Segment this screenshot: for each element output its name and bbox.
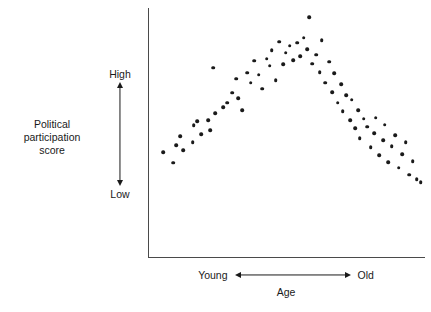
- scatter-point: [348, 118, 352, 122]
- y-axis-title: Political participation score: [6, 118, 98, 157]
- scatter-point: [268, 64, 272, 68]
- scatter-point: [411, 160, 415, 164]
- scatter-point: [284, 51, 288, 55]
- x-axis-old-label: Old: [358, 269, 374, 281]
- scatter-point: [213, 111, 217, 115]
- scatter-point: [383, 123, 387, 127]
- scatter-point: [181, 148, 185, 152]
- scatter-point: [274, 78, 278, 82]
- scatter-point: [378, 153, 382, 157]
- x-axis-young-label: Young: [198, 269, 227, 281]
- scatter-point: [339, 82, 343, 86]
- x-axis-title: Age: [155, 286, 417, 298]
- scatter-point: [192, 123, 196, 127]
- scatter-point: [393, 133, 397, 137]
- scatter-point: [288, 44, 292, 48]
- scatter-point: [200, 132, 204, 136]
- scatter-plot-area: [149, 8, 425, 257]
- scatter-point: [404, 141, 408, 145]
- scatter-point: [298, 55, 302, 59]
- scatter-point: [366, 125, 370, 129]
- scatter-point: [397, 166, 401, 170]
- scatter-point: [390, 144, 394, 148]
- scatter-point: [178, 134, 182, 138]
- y-axis-title-line1: Political participation: [6, 118, 98, 144]
- y-axis-title-line2: score: [6, 144, 98, 157]
- scatter-point: [260, 87, 264, 91]
- scatter-point: [318, 70, 322, 74]
- arrow-down-head-icon: [117, 180, 123, 186]
- y-axis-low-label: Low: [96, 188, 144, 200]
- scatter-point: [230, 91, 234, 95]
- scatter-point: [208, 128, 212, 132]
- y-axis-high-label: High: [96, 68, 144, 80]
- scatter-point: [171, 161, 175, 165]
- y-axis-double-arrow-icon: [96, 82, 144, 186]
- scatter-point: [249, 81, 253, 85]
- scatter-point: [191, 140, 195, 144]
- scatter-point: [419, 181, 423, 185]
- scatter-point: [330, 90, 334, 94]
- scatter-point: [174, 143, 178, 147]
- arrow-shaft: [119, 85, 120, 183]
- scatter-point: [206, 118, 210, 122]
- scatter-point: [234, 77, 238, 81]
- scatter-point: [345, 93, 349, 97]
- scatter-point: [311, 62, 315, 66]
- scatter-point: [277, 40, 281, 44]
- arrow-shaft: [239, 274, 347, 275]
- scatter-point: [353, 126, 357, 130]
- scatter-point: [292, 58, 296, 62]
- scatter-point: [407, 173, 411, 177]
- scatter-point: [362, 117, 366, 121]
- scatter-point: [314, 53, 318, 57]
- scatter-point: [372, 131, 376, 135]
- scatter-point: [245, 71, 249, 75]
- scatter-point: [270, 49, 274, 53]
- scatter-point: [295, 41, 299, 45]
- scatter-point: [221, 105, 225, 109]
- scatter-point: [357, 108, 361, 112]
- scatter-point: [281, 62, 285, 66]
- scatter-point: [341, 109, 345, 113]
- scatter-point: [332, 71, 336, 75]
- scatter-point: [386, 161, 390, 165]
- scatter-point: [401, 153, 405, 157]
- scatter-point: [225, 101, 229, 105]
- arrow-right-head-icon: [345, 272, 351, 278]
- scatter-point: [265, 57, 269, 61]
- scatter-point: [196, 119, 200, 123]
- scatter-point: [381, 138, 385, 142]
- scatter-point: [307, 15, 311, 19]
- scatter-point: [336, 101, 340, 105]
- scatter-point: [257, 73, 261, 77]
- scatter-point: [306, 48, 310, 52]
- y-axis-direction-annotation: High Low: [96, 68, 144, 204]
- scatter-point: [369, 146, 373, 150]
- scatter-point: [320, 39, 324, 43]
- scatter-point: [324, 81, 328, 85]
- scatter-point: [253, 59, 257, 63]
- scatter-point: [302, 36, 306, 40]
- scatter-point: [161, 150, 165, 154]
- scatter-point: [327, 60, 331, 64]
- x-axis-double-arrow-icon: [235, 269, 351, 281]
- x-axis-direction-annotation: Young Old Age: [155, 268, 417, 308]
- scatter-point: [374, 116, 378, 120]
- scatter-point: [350, 98, 354, 102]
- chart-figure: Political participation score High Low Y…: [0, 0, 431, 312]
- scatter-point: [237, 96, 241, 100]
- scatter-point: [358, 137, 362, 141]
- scatter-point: [211, 66, 215, 70]
- x-axis-arrow-row: Young Old: [155, 268, 417, 282]
- scatter-point: [240, 108, 244, 112]
